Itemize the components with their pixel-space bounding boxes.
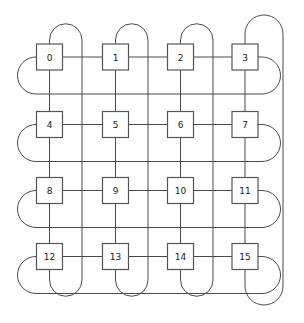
node-box-2[interactable] bbox=[168, 44, 194, 70]
node-group-9[interactable]: 9 bbox=[103, 178, 129, 204]
node-box-3[interactable] bbox=[232, 44, 258, 70]
node-box-15[interactable] bbox=[232, 244, 258, 270]
node-group-2[interactable]: 2 bbox=[168, 44, 194, 70]
vertical-mesh-links bbox=[50, 70, 246, 244]
node-box-1[interactable] bbox=[103, 44, 129, 70]
node-box-10[interactable] bbox=[168, 178, 194, 204]
node-box-11[interactable] bbox=[232, 178, 258, 204]
node-box-9[interactable] bbox=[103, 178, 129, 204]
torus-diagram-root: 0 1 2 3 4 5 6 7 bbox=[0, 0, 304, 323]
node-group-8[interactable]: 8 bbox=[37, 178, 63, 204]
node-group-13[interactable]: 13 bbox=[103, 244, 129, 270]
node-group-11[interactable]: 11 bbox=[232, 178, 258, 204]
node-group-14[interactable]: 14 bbox=[168, 244, 194, 270]
node-group-10[interactable]: 10 bbox=[168, 178, 194, 204]
node-group-0[interactable]: 0 bbox=[37, 44, 63, 70]
horizontal-mesh-links bbox=[63, 57, 233, 257]
node-box-12[interactable] bbox=[37, 244, 63, 270]
node-box-0[interactable] bbox=[37, 44, 63, 70]
node-group-5[interactable]: 5 bbox=[103, 112, 129, 138]
node-box-7[interactable] bbox=[232, 112, 258, 138]
node-group-6[interactable]: 6 bbox=[168, 112, 194, 138]
node-box-4[interactable] bbox=[37, 112, 63, 138]
node-group-1[interactable]: 1 bbox=[103, 44, 129, 70]
node-group-4[interactable]: 4 bbox=[37, 112, 63, 138]
torus-network-svg: 0 1 2 3 4 5 6 7 bbox=[0, 0, 304, 323]
node-group-15[interactable]: 15 bbox=[232, 244, 258, 270]
node-box-8[interactable] bbox=[37, 178, 63, 204]
node-group-7[interactable]: 7 bbox=[232, 112, 258, 138]
node-group-3[interactable]: 3 bbox=[232, 44, 258, 70]
node-box-5[interactable] bbox=[103, 112, 129, 138]
node-group-12[interactable]: 12 bbox=[37, 244, 63, 270]
node-box-14[interactable] bbox=[168, 244, 194, 270]
node-box-6[interactable] bbox=[168, 112, 194, 138]
node-box-13[interactable] bbox=[103, 244, 129, 270]
